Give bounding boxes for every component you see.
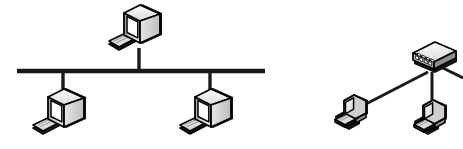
diagram-canvas: Bus Topology Star Topology Hub bbox=[0, 0, 463, 149]
star-link-left bbox=[364, 72, 428, 105]
star-topology-diagram bbox=[335, 42, 463, 135]
star-node-right[interactable] bbox=[414, 99, 447, 135]
bus-node-left[interactable] bbox=[33, 88, 86, 134]
desktop-computer-icon bbox=[109, 4, 162, 50]
bus-topology-diagram bbox=[17, 4, 265, 134]
bus-node-top[interactable] bbox=[109, 4, 162, 50]
workstation-computer-icon bbox=[335, 94, 368, 130]
desktop-computer-icon bbox=[180, 88, 233, 134]
star-hub[interactable] bbox=[413, 42, 457, 73]
desktop-computer-icon bbox=[33, 88, 86, 134]
network-topology-illustration bbox=[0, 0, 463, 149]
workstation-computer-icon bbox=[414, 99, 447, 135]
network-hub-icon bbox=[413, 42, 457, 73]
star-node-left[interactable] bbox=[335, 94, 368, 130]
bus-node-right[interactable] bbox=[180, 88, 233, 134]
star-link-offscreen bbox=[443, 68, 463, 78]
